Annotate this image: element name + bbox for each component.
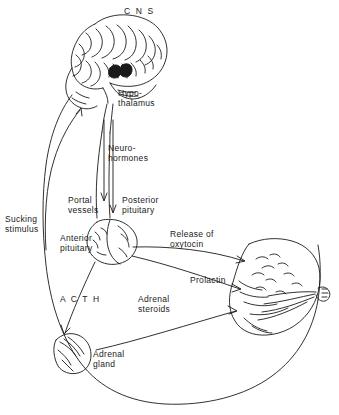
label-hypothalamus: Hypo- thalamus [118, 88, 155, 108]
adrenal-gland-shape [54, 334, 91, 374]
label-anterior-pituitary: Anterior pituitary [60, 233, 92, 253]
label-adrenal-steroids: Adrenal steroids [138, 294, 170, 314]
internal-arrows [101, 120, 116, 213]
label-prolactin: Prolactin [190, 275, 226, 285]
label-posterior-pituitary: Posterior pituitary [122, 195, 159, 215]
label-sucking-stimulus: Sucking stimulus [5, 214, 39, 234]
label-portal-vessels: Portal vessels [68, 195, 98, 215]
anatomy-diagram: C N S Hypo- thalamus Neuro- hormones Por… [0, 0, 339, 415]
label-neurohormones: Neuro- hormones [108, 143, 148, 163]
label-cns: C N S [124, 6, 155, 16]
pituitary-gland [87, 219, 137, 264]
diagram-linework [0, 0, 339, 415]
breast-outline [229, 239, 329, 336]
label-release-of-oxytocin: Release of oxytocin [170, 229, 214, 249]
label-adrenal-gland: Adrenal gland [93, 349, 124, 369]
label-acth: A C T H [60, 294, 101, 304]
